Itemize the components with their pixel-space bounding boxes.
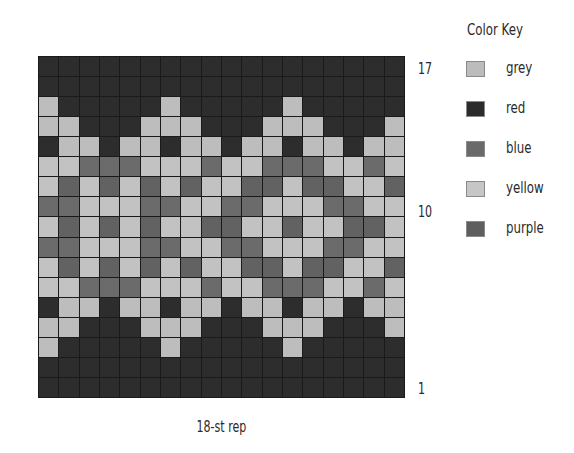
chart-cell	[303, 298, 322, 317]
chart-cell	[59, 238, 78, 257]
grey-swatch	[466, 61, 485, 77]
chart-cell	[385, 197, 404, 216]
chart-cell	[344, 378, 363, 397]
chart-cell	[303, 258, 322, 277]
chart-cell	[141, 217, 160, 236]
chart-cell	[161, 298, 180, 317]
chart-cell	[141, 97, 160, 116]
chart-cell	[385, 278, 404, 297]
chart-cell	[120, 137, 139, 156]
chart-cell	[80, 137, 99, 156]
chart-cell	[263, 318, 282, 337]
chart-cell	[100, 338, 119, 357]
key-label-grey: grey	[506, 58, 532, 77]
chart-cell	[263, 217, 282, 236]
chart-cell	[344, 217, 363, 236]
key-item-grey: grey	[466, 60, 485, 78]
chart-cell	[120, 117, 139, 136]
chart-cell	[80, 117, 99, 136]
chart-cell	[39, 137, 58, 156]
chart-cell	[161, 197, 180, 216]
chart-cell	[263, 177, 282, 196]
chart-cell	[303, 338, 322, 357]
chart-cell	[364, 298, 383, 317]
chart-cell	[303, 117, 322, 136]
chart-cell	[344, 338, 363, 357]
chart-cell	[324, 238, 343, 257]
chart-cell	[161, 157, 180, 176]
chart-cell	[181, 137, 200, 156]
chart-cell	[161, 57, 180, 76]
chart-cell	[181, 278, 200, 297]
chart-cell	[161, 258, 180, 277]
chart-cell	[100, 217, 119, 236]
chart-cell	[100, 197, 119, 216]
chart-cell	[120, 298, 139, 317]
chart-cell	[242, 177, 261, 196]
chart-cell	[141, 57, 160, 76]
chart-cell	[222, 338, 241, 357]
chart-cell	[242, 378, 261, 397]
chart-cell	[141, 77, 160, 96]
chart-cell	[181, 117, 200, 136]
chart-cell	[59, 278, 78, 297]
chart-cell	[364, 278, 383, 297]
chart-cell	[324, 77, 343, 96]
chart-cell	[344, 358, 363, 377]
chart-cell	[324, 137, 343, 156]
chart-cell	[141, 378, 160, 397]
chart-cell	[263, 197, 282, 216]
chart-cell	[222, 318, 241, 337]
chart-cell	[100, 238, 119, 257]
chart-cell	[222, 278, 241, 297]
chart-cell	[303, 318, 322, 337]
chart-cell	[283, 77, 302, 96]
chart-cell	[202, 318, 221, 337]
chart-cell	[324, 157, 343, 176]
chart-cell	[80, 197, 99, 216]
chart-cell	[161, 97, 180, 116]
chart-cell	[202, 217, 221, 236]
chart-cell	[59, 137, 78, 156]
chart-cell	[202, 278, 221, 297]
chart-cell	[344, 197, 363, 216]
chart-cell	[242, 318, 261, 337]
chart-cell	[303, 57, 322, 76]
chart-cell	[283, 338, 302, 357]
chart-cell	[344, 298, 363, 317]
chart-cell	[202, 197, 221, 216]
chart-cell	[59, 378, 78, 397]
chart-cell	[100, 117, 119, 136]
chart-cell	[202, 358, 221, 377]
chart-cell	[202, 137, 221, 156]
key-item-blue: blue	[466, 140, 485, 158]
chart-cell	[120, 258, 139, 277]
chart-cell	[141, 298, 160, 317]
chart-cell	[222, 238, 241, 257]
chart-cell	[181, 97, 200, 116]
chart-cell	[181, 197, 200, 216]
chart-cell	[80, 258, 99, 277]
key-label-red: red	[506, 98, 525, 117]
chart-cell	[364, 177, 383, 196]
chart-cell	[181, 358, 200, 377]
chart-cell	[263, 117, 282, 136]
chart-cell	[364, 338, 383, 357]
chart-cell	[161, 137, 180, 156]
chart-cell	[80, 57, 99, 76]
chart-cell	[283, 358, 302, 377]
chart-cell	[141, 278, 160, 297]
chart-cell	[181, 57, 200, 76]
chart-cell	[59, 358, 78, 377]
chart-cell	[141, 358, 160, 377]
chart-cell	[242, 117, 261, 136]
chart-cell	[161, 177, 180, 196]
repeat-label: 18-st rep	[197, 418, 247, 436]
chart-cell	[141, 137, 160, 156]
chart-cell	[263, 97, 282, 116]
chart-cell	[385, 157, 404, 176]
chart-cell	[141, 238, 160, 257]
chart-cell	[161, 77, 180, 96]
chart-cell	[385, 177, 404, 196]
chart-cell	[385, 338, 404, 357]
